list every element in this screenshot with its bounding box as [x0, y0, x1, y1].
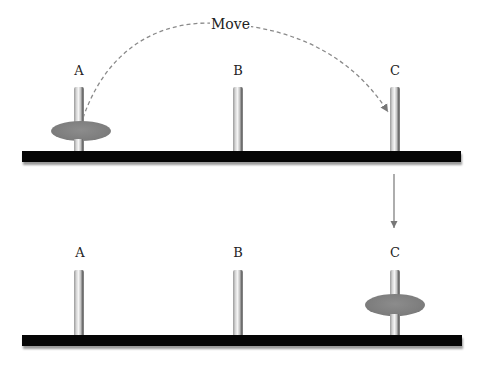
peg-b	[233, 87, 243, 151]
peg-label-a: A	[75, 246, 84, 259]
disk-on-peg-c	[365, 294, 425, 316]
peg-b	[233, 270, 243, 335]
base-bar-top	[22, 151, 461, 162]
base-bar-bottom	[22, 335, 462, 346]
peg-a-lower	[74, 139, 84, 151]
peg-a	[74, 270, 84, 335]
peg-label-c: C	[390, 64, 400, 77]
peg-label-b: B	[233, 64, 243, 77]
disk-on-peg-a	[51, 121, 111, 141]
peg-label-c: C	[390, 246, 400, 259]
peg-c-lower	[390, 314, 400, 335]
tower-of-hanoi-diagram: Move A B C A B C	[0, 0, 481, 366]
peg-label-a: A	[74, 64, 83, 77]
move-label: Move	[210, 17, 251, 31]
peg-label-b: B	[233, 246, 243, 259]
peg-c	[390, 87, 400, 151]
